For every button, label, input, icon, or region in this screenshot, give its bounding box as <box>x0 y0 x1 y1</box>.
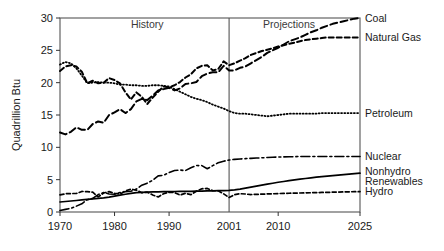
series-label-nuclear: Nuclear <box>365 150 402 162</box>
y-tick-label: 5 <box>47 174 53 186</box>
y-tick-label: 30 <box>41 12 53 24</box>
series-line-coal <box>60 18 360 134</box>
y-tick-label: 10 <box>41 141 53 153</box>
x-tick-label: 1980 <box>102 220 126 232</box>
y-tick-label: 0 <box>47 206 53 218</box>
x-tick-label: 2025 <box>348 220 372 232</box>
plot-frame <box>60 18 360 212</box>
y-tick-label: 20 <box>41 77 53 89</box>
series-label-coal: Coal <box>365 12 387 24</box>
series-label-hydro: Hydro <box>365 185 393 197</box>
y-tick-label: 25 <box>41 44 53 56</box>
series-line-petroleum <box>60 62 360 116</box>
chart-canvas: 051015202530197019801990200120102025Quad… <box>0 0 444 251</box>
annotation-projections: Projections <box>263 18 315 30</box>
x-tick-label: 1990 <box>157 220 181 232</box>
x-tick-label: 2010 <box>266 220 290 232</box>
series-line-nonhydro-renewables <box>60 173 360 202</box>
annotation-history: History <box>131 18 164 30</box>
x-tick-label: 1970 <box>48 220 72 232</box>
series-line-nuclear <box>60 157 360 211</box>
y-axis-title: Quadrillion Btu <box>10 79 22 151</box>
series-label-natural-gas: Natural Gas <box>365 31 421 43</box>
series-line-hydro <box>60 188 360 197</box>
x-tick-label: 2001 <box>217 220 241 232</box>
series-line-natural-gas <box>60 37 360 104</box>
series-label-petroleum: Petroleum <box>365 107 413 119</box>
energy-consumption-chart: 051015202530197019801990200120102025Quad… <box>0 0 444 251</box>
y-tick-label: 15 <box>41 109 53 121</box>
